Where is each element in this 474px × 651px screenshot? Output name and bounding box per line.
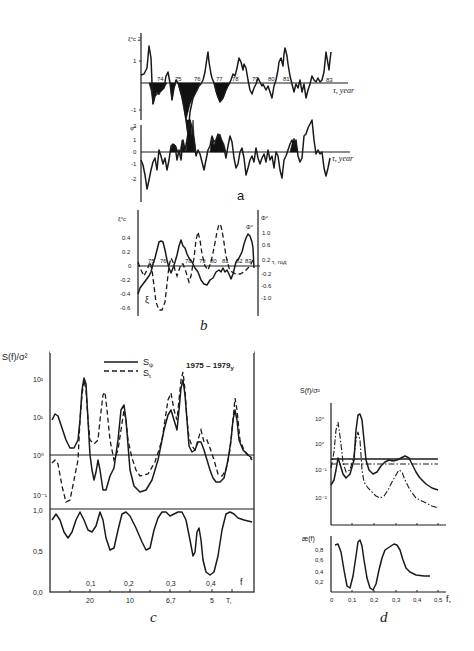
panel-c-label: c [150, 609, 157, 625]
panel-a-top-ytick: -1 [131, 107, 137, 113]
panel-a-label: a [237, 188, 245, 203]
panel-a-bottom-xlabel: τ, year [332, 154, 354, 163]
panel-a-bottom-ytick: -2 [131, 176, 137, 182]
panel-a-top-xlabel: τ, year [333, 86, 355, 95]
year-label: 81 [283, 76, 290, 82]
panel-d-solid-series [331, 414, 438, 490]
year-label: 77 [216, 76, 223, 82]
panel-c-ylabel: S(f)/σ² [2, 352, 28, 362]
legend-label-st: St [143, 368, 151, 379]
panel-d-label: d [380, 609, 388, 625]
panel-c-xlabel-T: T, [226, 597, 232, 604]
panel-d-coh-tick: 0,2 [315, 579, 324, 585]
panel-c-frame [50, 352, 254, 592]
figure-canvas: ξ°c 2 1 -1 74 75 76 77 78 79 80 81 83 τ,… [0, 0, 474, 651]
panel-b-phi-series [138, 224, 254, 310]
panel-d-xtick: 0,2 [370, 597, 379, 603]
panel-c-coh-tick: 0,5 [33, 548, 43, 555]
panel-c-xlabel-f: f [240, 577, 243, 587]
panel-a-bottom-ytick: 1 [133, 137, 137, 143]
panel-c-st-series [52, 372, 252, 502]
year-label: 75 [175, 76, 182, 82]
panel-b-right-tick: 0.6 [262, 242, 271, 248]
panel-d-xticks [352, 523, 438, 592]
panel-a-bottom-ytick: -1 [131, 161, 137, 167]
panel-d-xtick: 0,4 [413, 597, 422, 603]
panel-d-coh-label: æ(f) [302, 535, 315, 543]
panel-a-top-series [141, 46, 331, 135]
panel-d-coh-tick: 0,8 [315, 547, 324, 553]
panel-d-xtick: 0,3 [392, 597, 401, 603]
panel-b-left-tick: -0.4 [120, 291, 131, 297]
panel-d-ytick: 10⁻² [315, 495, 327, 501]
panel-b-label: b [200, 317, 208, 333]
panel-b-left-tick: -0.2 [120, 277, 131, 283]
panel-b-right-tick: -0.6 [261, 283, 272, 289]
period-note: 1975 – 1979y [186, 361, 235, 371]
panel-d-dashdot-series [331, 422, 438, 508]
legend-label-sw: Sψ [143, 357, 153, 368]
panel-a-top-ylabel: ξ°c 2 [128, 36, 142, 42]
panel-b-right-ylabel: Φ° [261, 215, 269, 221]
panel-b-left-tick: 0.4 [122, 235, 131, 241]
panel-b-right-tick: -1.0 [261, 295, 272, 301]
year-label: 74 [157, 76, 164, 82]
panel-c-ytick: 10⁻¹ [33, 492, 48, 499]
panel-b-left-tick: 0.2 [122, 249, 131, 255]
panel-d-xtick: 0,5 [434, 597, 443, 603]
panel-d-xtick: 0 [330, 597, 334, 603]
panel-d: S(f)/σ² 10° 10° 10⁻¹ 10⁻² æ(f) 0,8 0,6 0… [300, 387, 451, 625]
panel-c-coh-tick: 0,0 [33, 589, 43, 596]
panel-c-xtick-f: 0,1 [86, 580, 96, 587]
panel-a-bottom-series [141, 120, 330, 189]
panel-a-bottom-ytick-top: 2 [133, 123, 137, 129]
panel-c-coh-tick: 1,0 [33, 507, 43, 514]
panel-b: ξ°c Φ° 0.4 0.2 0 -0.2 -0.4 -0.6 1.0 0.6 … [118, 210, 287, 333]
year-label: 80 [268, 76, 275, 82]
panel-c-xtick-f: 0,2 [124, 580, 134, 587]
panel-b-left-tick: 0 [128, 263, 132, 269]
year-label: 83 [326, 77, 333, 83]
panel-d-xlabel: f, [446, 594, 451, 604]
panel-d-coherence-series [335, 540, 430, 590]
panel-b-left-tick: -0.6 [120, 305, 131, 311]
panel-c-ytick: 10⁰ [33, 452, 44, 459]
panel-b-right-tick: -0.2 [261, 271, 272, 277]
panel-b-right-tick: 1.0 [262, 230, 271, 236]
panel-b-xi-label: ξ [145, 295, 149, 305]
panel-c-coherence-series [52, 512, 252, 575]
panel-c-ytick: 10¹ [33, 414, 44, 421]
panel-d-ytick: 10° [315, 416, 325, 422]
year-label: 76 [194, 76, 201, 82]
panel-d-coh-tick: 0,6 [315, 557, 324, 563]
panel-b-phi-label: Φ° [246, 224, 254, 230]
panel-a-bottom-ytick: 0 [133, 149, 137, 155]
year-label: 78 [232, 76, 239, 82]
panel-a: ξ°c 2 1 -1 74 75 76 77 78 79 80 81 83 τ,… [128, 33, 355, 203]
year-label: 81 [222, 258, 229, 264]
panel-c-xtick-f: 0,3 [166, 580, 176, 587]
panel-c-xtick-T: 5 [210, 597, 214, 604]
panel-c: S(f)/σ² 10² 10¹ 10⁰ 10⁻¹ 1,0 0,5 0,0 Sψ … [2, 352, 254, 625]
panel-a-top-ytick: 1 [133, 58, 137, 64]
panel-b-xlabel: τ, год [272, 259, 287, 265]
panel-d-ylabel: S(f)/σ² [300, 387, 321, 395]
panel-b-right-tick: 0.2 [262, 257, 271, 263]
panel-c-xtick-T: 10 [126, 597, 134, 604]
panel-d-ytick: 10° [315, 441, 325, 447]
panel-d-coh-tick: 0,4 [315, 569, 324, 575]
panel-c-xtick-f: 0,4 [206, 580, 216, 587]
panel-d-xtick: 0,1 [348, 597, 357, 603]
panel-d-ytick: 10⁻¹ [315, 467, 327, 473]
panel-c-ytick: 10² [33, 376, 44, 383]
year-label: 79 [252, 76, 259, 82]
panel-b-left-ylabel: ξ°c [118, 216, 126, 222]
panel-c-xtick-T: 6,7 [166, 597, 176, 604]
panel-c-xtick-T: 20 [86, 597, 94, 604]
